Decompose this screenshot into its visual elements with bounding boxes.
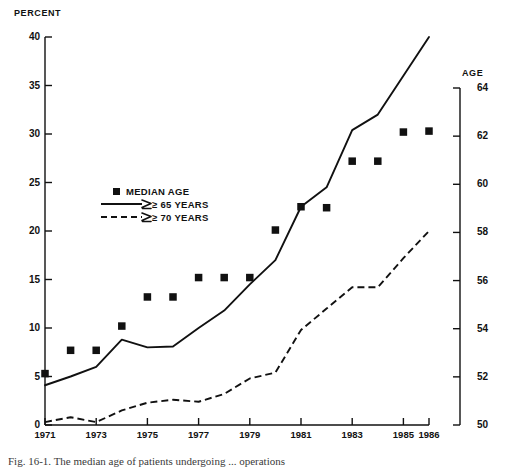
- median-age-marker: [374, 157, 382, 165]
- left-tick-35: 35: [14, 80, 40, 91]
- left-tick-30: 30: [14, 128, 40, 139]
- median-age-marker: [246, 274, 254, 282]
- chart-plot-area: [0, 0, 510, 468]
- median-age-marker: [41, 370, 49, 378]
- x-tick-1971: 1971: [27, 429, 63, 440]
- median-age-marker: [348, 157, 356, 165]
- legend-label-65-years: ≥ 65 YEARS: [152, 199, 209, 210]
- series-line-70-years: [45, 231, 429, 422]
- x-tick-1979: 1979: [232, 429, 268, 440]
- median-age-marker: [67, 347, 75, 355]
- median-age-marker: [92, 347, 100, 355]
- legend-label-70-years: ≥ 70 YEARS: [152, 212, 209, 223]
- right-tick-60: 60: [466, 178, 488, 189]
- median-age-marker: [144, 293, 152, 301]
- legend-square-marker: [113, 188, 120, 195]
- legend-label-median-age: MEDIAN AGE: [126, 186, 189, 197]
- median-age-marker: [297, 203, 305, 211]
- figure-container: PERCENT AGE 0510152025303540 50525456586…: [0, 0, 510, 468]
- series-markers-median-age: [41, 127, 433, 377]
- right-tick-50: 50: [466, 419, 488, 430]
- median-age-marker: [400, 128, 408, 136]
- figure-caption: Fig. 16-1. The median age of patients un…: [8, 455, 504, 468]
- left-tick-5: 5: [14, 371, 40, 382]
- x-tick-1983: 1983: [334, 429, 370, 440]
- right-tick-64: 64: [466, 82, 488, 93]
- right-tick-62: 62: [466, 130, 488, 141]
- legend-gte-arrow-icon: [142, 213, 151, 222]
- median-age-marker: [425, 127, 433, 135]
- left-tick-25: 25: [14, 177, 40, 188]
- median-age-marker: [220, 274, 228, 282]
- left-tick-20: 20: [14, 225, 40, 236]
- x-tick-1975: 1975: [129, 429, 165, 440]
- right-tick-56: 56: [466, 275, 488, 286]
- median-age-marker: [323, 204, 331, 212]
- left-axis: [45, 37, 52, 425]
- right-axis: [453, 88, 460, 425]
- x-tick-1977: 1977: [181, 429, 217, 440]
- median-age-marker: [118, 322, 126, 330]
- legend-gte-arrow-icon: [142, 200, 151, 209]
- x-tick-1973: 1973: [78, 429, 114, 440]
- left-tick-40: 40: [14, 31, 40, 42]
- right-tick-54: 54: [466, 323, 488, 334]
- left-tick-15: 15: [14, 274, 40, 285]
- series-line-65-years: [45, 37, 429, 385]
- x-tick-1986: 1986: [411, 429, 447, 440]
- median-age-marker: [272, 226, 280, 234]
- right-tick-58: 58: [466, 226, 488, 237]
- right-tick-52: 52: [466, 371, 488, 382]
- x-tick-1981: 1981: [283, 429, 319, 440]
- left-tick-10: 10: [14, 322, 40, 333]
- median-age-marker: [169, 293, 177, 301]
- median-age-marker: [195, 274, 203, 282]
